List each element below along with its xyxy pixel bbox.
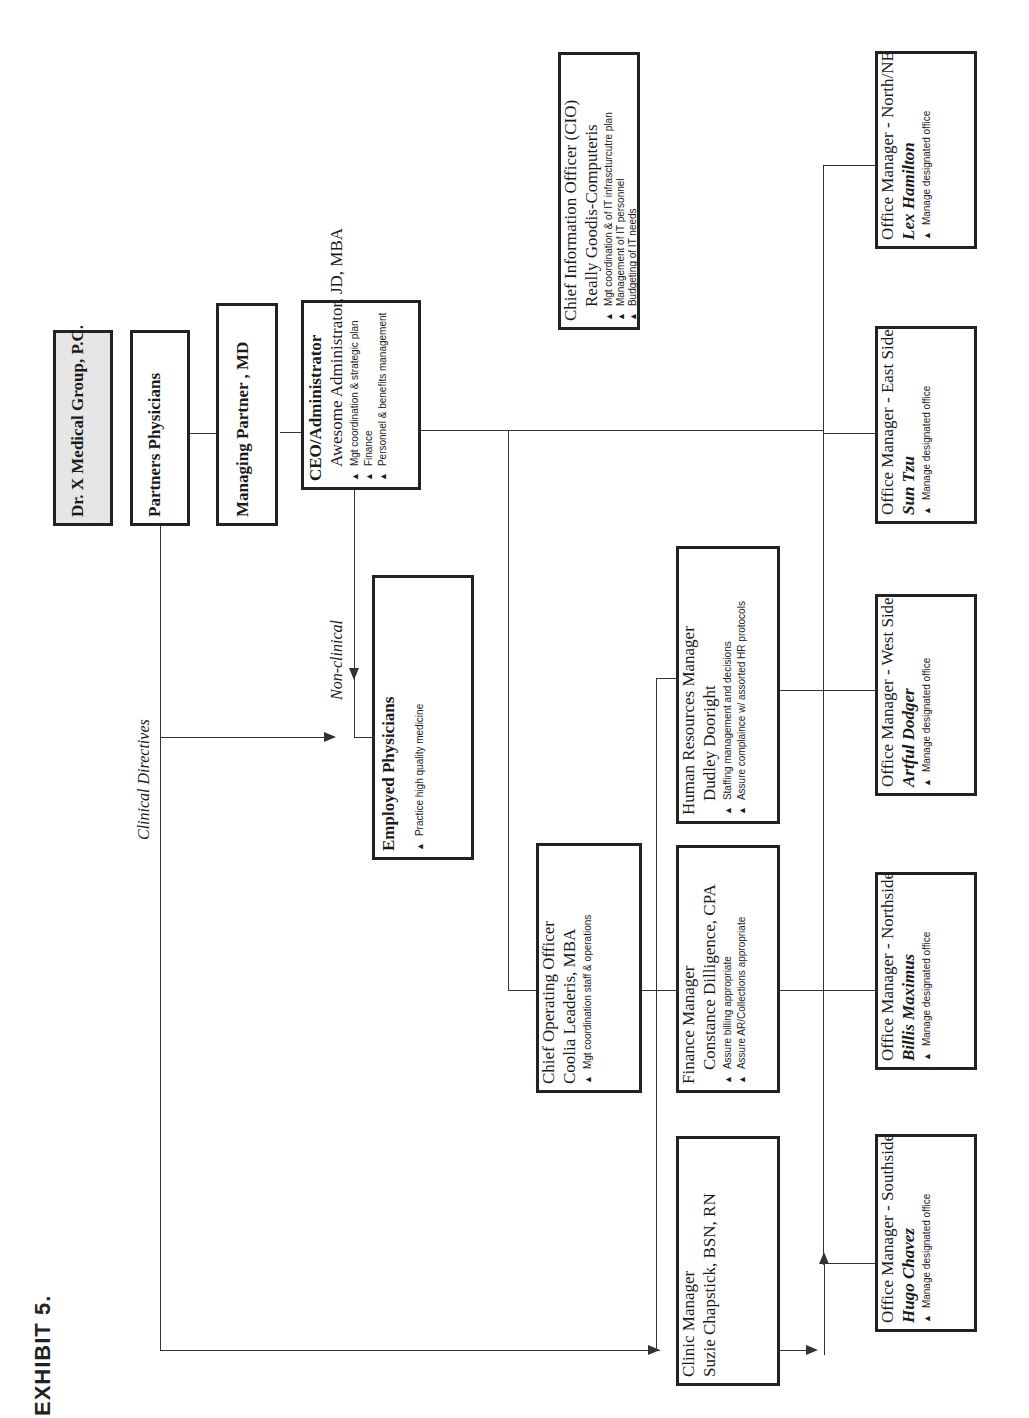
cio-bullet: ▲Management of IT personnel <box>615 61 627 321</box>
finance-title: Finance Manager <box>679 854 699 1084</box>
partners-title: Partners Physicians <box>145 339 165 517</box>
bullet-triangle-icon: ▲ <box>922 506 932 515</box>
connector-clinic-up <box>824 1263 825 1355</box>
cio-bullet: ▲Budgeting of IT needs <box>627 61 639 321</box>
bullet-triangle-icon: ▲ <box>364 472 374 481</box>
coo-bullet: ▲Mgt coordination staff & operations <box>581 852 595 1084</box>
om-west-bullet: ▲Manage designated office <box>920 603 934 787</box>
cio-bullet: ▲Mgt coordination & of IT infrascturcutr… <box>603 61 615 321</box>
ceo-title: CEO/Administrator <box>306 309 326 481</box>
arrow-up-icon <box>819 1252 829 1264</box>
connector-om-north-ne <box>823 165 875 166</box>
bullet-triangle-icon: ▲ <box>415 842 425 851</box>
coo-name: Coolia Leaderis, MBA <box>559 852 581 1084</box>
finance-bullet: ▲Assure billing appropriate <box>721 854 735 1084</box>
ceo-name: Awesome Administrator, JD, MBA <box>326 309 348 481</box>
om-north-ne-bullet: ▲Manage designated office <box>920 60 934 240</box>
coo-title: Chief Operating Officer <box>539 852 559 1084</box>
bullet-triangle-icon: ▲ <box>628 312 638 321</box>
hr-manager-box[interactable]: Human Resources Manager Dudley Dooright … <box>676 546 780 824</box>
ceo-bullet: ▲Mgt coordination & strategic plan <box>348 309 362 481</box>
connector-nonclinical <box>354 490 355 738</box>
bullet-triangle-icon: ▲ <box>922 1314 932 1323</box>
clinical-directives-label: Clinical Directives <box>135 719 153 840</box>
clinic-manager-box[interactable]: Clinic Manager Suzie Chapstick, BSN, RN <box>676 1136 780 1386</box>
office-manager-west-box[interactable]: Office Manager - West Side Artful Dodger… <box>875 594 977 796</box>
office-manager-northside-box[interactable]: Office Manager - Northside Billis Maximu… <box>875 872 977 1070</box>
cio-title: Chief Information Officer (CIO) <box>561 61 581 321</box>
connector-ceo-trunk <box>420 430 824 431</box>
arrow-right-icon <box>324 732 336 742</box>
om-east-name: Sun Tzu <box>898 335 920 515</box>
om-northside-name: Billis Maximus <box>898 881 920 1061</box>
connector-clinical-directives <box>160 500 161 1350</box>
bullet-triangle-icon: ▲ <box>737 806 747 815</box>
bullet-triangle-icon: ▲ <box>350 472 360 481</box>
coo-box[interactable]: Chief Operating Officer Coolia Leaderis,… <box>536 843 642 1093</box>
om-north-ne-title: Office Manager - North/NE <box>878 60 898 240</box>
bullet-triangle-icon: ▲ <box>737 1075 747 1084</box>
connector-om-northside <box>770 990 876 991</box>
arrow-down-icon <box>349 668 359 680</box>
bullet-triangle-icon: ▲ <box>922 778 932 787</box>
om-southside-title: Office Manager - Southside <box>878 1143 898 1323</box>
connector-coo-stub <box>508 990 536 991</box>
om-east-title: Office Manager - East Side <box>878 335 898 515</box>
office-manager-east-box[interactable]: Office Manager - East Side Sun Tzu ▲Mana… <box>875 326 977 524</box>
nonclinical-label: Non-clinical <box>328 620 346 700</box>
ceo-box[interactable]: CEO/Administrator Awesome Administrator,… <box>301 300 421 490</box>
connector-clinical-employed <box>160 737 330 738</box>
connector-mgr-bus <box>656 678 657 1350</box>
connector-om-east <box>823 433 875 434</box>
org-box[interactable]: Dr. X Medical Group, P.C. <box>53 330 113 526</box>
exhibit-label: EXHIBIT 5. <box>30 1295 56 1416</box>
bullet-triangle-icon: ▲ <box>723 806 733 815</box>
finance-bullet: ▲Assure AR/Collections appropriate <box>735 854 749 1084</box>
managing-partner-box[interactable]: Managing Partner , MD <box>216 303 278 526</box>
bullet-triangle-icon: ▲ <box>583 1075 593 1084</box>
connector-nonclinical-employed <box>354 737 374 738</box>
bullet-triangle-icon: ▲ <box>922 231 932 240</box>
om-west-name: Artful Dodger <box>898 603 920 787</box>
office-manager-north-ne-box[interactable]: Office Manager - North/NE Lex Hamilton ▲… <box>875 51 977 249</box>
hr-name: Dudley Dooright <box>699 555 721 815</box>
connector-om-west <box>786 690 876 691</box>
bullet-triangle-icon: ▲ <box>378 472 388 481</box>
connector-om-southside <box>823 1263 875 1264</box>
org-title: Dr. X Medical Group, P.C. <box>68 339 88 517</box>
om-northside-title: Office Manager - Northside <box>878 881 898 1061</box>
bullet-triangle-icon: ▲ <box>723 1075 733 1084</box>
clinic-name: Suzie Chapstick, BSN, RN <box>699 1145 721 1377</box>
hr-title: Human Resources Manager <box>679 555 699 815</box>
partners-box[interactable]: Partners Physicians <box>130 330 190 526</box>
clinic-title: Clinic Manager <box>679 1145 699 1377</box>
om-north-ne-name: Lex Hamilton <box>898 60 920 240</box>
finance-name: Constance Dilligence, CPA <box>699 854 721 1084</box>
om-southside-bullet: ▲Manage designated office <box>920 1143 934 1323</box>
cio-box[interactable]: Chief Information Officer (CIO) Really G… <box>558 52 640 330</box>
om-southside-name: Hugo Chavez <box>898 1143 920 1323</box>
arrow-right-icon <box>648 1345 660 1355</box>
bullet-triangle-icon: ▲ <box>604 312 614 321</box>
hr-bullet: ▲Assure complaince w/ assorted HR protoc… <box>735 555 749 815</box>
connector-partners-managing <box>190 433 218 434</box>
om-northside-bullet: ▲Manage designated office <box>920 881 934 1061</box>
om-west-title: Office Manager - West Side <box>878 603 898 787</box>
connector-mgr-hr <box>656 678 678 679</box>
connector-trunk-coo <box>508 430 509 990</box>
connector-om-bus <box>823 165 824 1265</box>
hr-bullet: ▲Staffing management and decisions <box>721 555 735 815</box>
arrow-right-icon <box>806 1345 818 1355</box>
finance-manager-box[interactable]: Finance Manager Constance Dilligence, CP… <box>676 845 780 1093</box>
cio-name: Really Goodis-Computeris <box>581 61 603 321</box>
om-east-bullet: ▲Manage designated office <box>920 335 934 515</box>
ceo-bullet: ▲Finance <box>362 309 376 481</box>
employed-title: Employed Physicians <box>379 584 399 851</box>
bullet-triangle-icon: ▲ <box>616 312 626 321</box>
managing-partner-title: Managing Partner , MD <box>233 312 253 517</box>
employed-bullet: ▲Practice high quality medicine <box>413 584 427 851</box>
bullet-triangle-icon: ▲ <box>922 1052 932 1061</box>
connector-coo-finance <box>640 990 678 991</box>
office-manager-southside-box[interactable]: Office Manager - Southside Hugo Chavez ▲… <box>875 1134 977 1332</box>
employed-physicians-box[interactable]: Employed Physicians ▲Practice high quali… <box>372 575 474 860</box>
